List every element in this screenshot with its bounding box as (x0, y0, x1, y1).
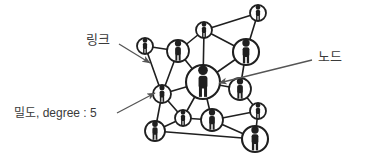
annotation-link-label: 링크 (86, 33, 110, 46)
network-graph (0, 0, 368, 160)
graph-node[interactable] (186, 65, 220, 99)
graph-node[interactable] (229, 78, 251, 100)
graph-node[interactable] (137, 38, 153, 54)
graph-node[interactable] (167, 40, 189, 62)
graph-node[interactable] (233, 39, 259, 65)
graph-node[interactable] (242, 126, 268, 152)
annotation-degree-label: 밀도, degree : 5 (14, 107, 97, 119)
graph-node[interactable] (145, 121, 165, 141)
annotation-arrow (117, 93, 155, 113)
graph-node[interactable] (175, 110, 191, 126)
graph-node[interactable] (196, 22, 212, 38)
graph-node[interactable] (250, 103, 266, 119)
annotation-arrow (219, 60, 312, 83)
graph-node[interactable] (201, 109, 223, 131)
diagram-canvas: 링크 노드 밀도, degree : 5 (0, 0, 368, 160)
graph-node[interactable] (250, 5, 266, 21)
graph-node[interactable] (153, 85, 171, 103)
annotation-node-label: 노드 (318, 50, 342, 63)
